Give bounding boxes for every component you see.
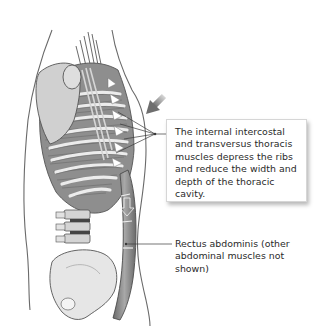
rectus-abdominis-label-text: Rectus abdominis (other abdominal muscle… bbox=[175, 238, 290, 274]
chest-compression-arrow-icon bbox=[146, 96, 164, 114]
humeral-head bbox=[63, 65, 81, 89]
rectus-abdominis-label: Rectus abdominis (other abdominal muscle… bbox=[175, 238, 310, 275]
leader-junction bbox=[154, 133, 157, 136]
pelvis bbox=[50, 250, 117, 320]
intercostal-callout: The internal intercostal and transversus… bbox=[166, 119, 307, 202]
intercostal-callout-text: The internal intercostal and transversus… bbox=[175, 126, 297, 199]
hip-socket bbox=[61, 298, 75, 310]
spine bbox=[56, 210, 90, 243]
